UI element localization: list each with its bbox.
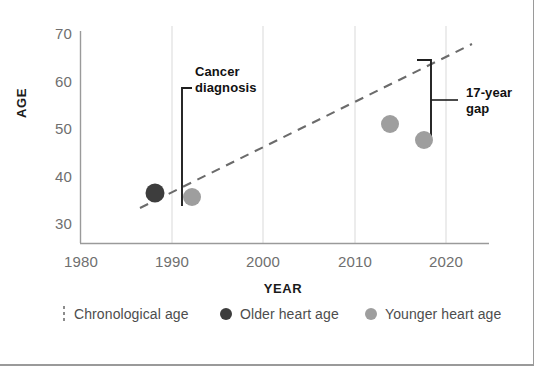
data-point-younger-2014: [381, 115, 399, 133]
x-tick-2000: 2000: [246, 254, 280, 269]
filled-circle-dark-marker-icon: [220, 308, 232, 320]
dashed-line-marker-icon: [63, 306, 65, 323]
cancer-diagnosis-label: Cancer diagnosis: [195, 64, 257, 97]
x-tick-1990: 1990: [155, 254, 189, 269]
y-tick-60: 60: [38, 74, 72, 89]
chart-legend: Chronological age Older heart age Younge…: [60, 303, 500, 329]
gap-bracket: [417, 60, 458, 141]
y-tick-50: 50: [38, 121, 72, 136]
x-tick-2010: 2010: [338, 254, 372, 269]
filled-circle-light-marker-icon: [365, 308, 377, 320]
data-points: [146, 115, 434, 206]
legend-item-younger-heart-age: Younger heart age: [365, 303, 501, 325]
y-tick-40: 40: [38, 169, 72, 184]
gridlines: [172, 26, 446, 243]
chart-figure: 70 60 50 40 30 1980 1990 2000 2010 2020 …: [0, 0, 534, 366]
gap-label: 17-year gap: [466, 85, 512, 118]
data-point-older-1988: [146, 184, 165, 203]
x-tick-1980: 1980: [64, 254, 98, 269]
x-axis-title: YEAR: [264, 281, 303, 296]
legend-item-older-heart-age: Older heart age: [220, 303, 339, 325]
y-tick-70: 70: [38, 26, 72, 41]
x-tick-2020: 2020: [429, 254, 463, 269]
plot-area: 70 60 50 40 30 1980 1990 2000 2010 2020 …: [0, 0, 534, 366]
legend-item-chronological-age: Chronological age: [60, 303, 189, 325]
legend-label-chronological-age: Chronological age: [74, 306, 189, 322]
y-axis-title: AGE: [14, 88, 29, 118]
y-tick-30: 30: [38, 216, 72, 231]
legend-label-younger-heart-age: Younger heart age: [385, 306, 501, 322]
data-point-younger-1992: [183, 188, 201, 206]
chronological-age-trendline: [140, 44, 472, 208]
legend-label-older-heart-age: Older heart age: [240, 306, 339, 322]
data-point-younger-2018: [415, 131, 433, 149]
